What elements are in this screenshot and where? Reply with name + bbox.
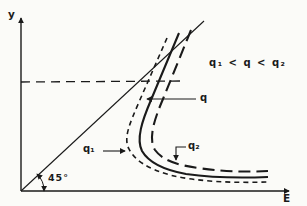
curve-q2-label: q₂ (188, 141, 200, 151)
angle-label: 45° (48, 173, 69, 183)
q2-pointer-arrow (176, 147, 186, 160)
diagonal-45-line (21, 21, 204, 191)
curve-q1-label: q₁ (83, 144, 95, 154)
figure-canvas: y E 45° q q₁ q₂ q₁ < q < q₂ (0, 0, 307, 206)
horizontal-guide-line (21, 81, 181, 82)
curve-q-label: q (200, 93, 207, 103)
x-axis-label: E (283, 193, 290, 204)
plot-drawing (0, 0, 307, 206)
angle-arc (37, 174, 44, 191)
curve-q2 (152, 30, 268, 172)
inequality-annotation: q₁ < q < q₂ (209, 58, 286, 68)
y-axis-label: y (8, 9, 15, 20)
